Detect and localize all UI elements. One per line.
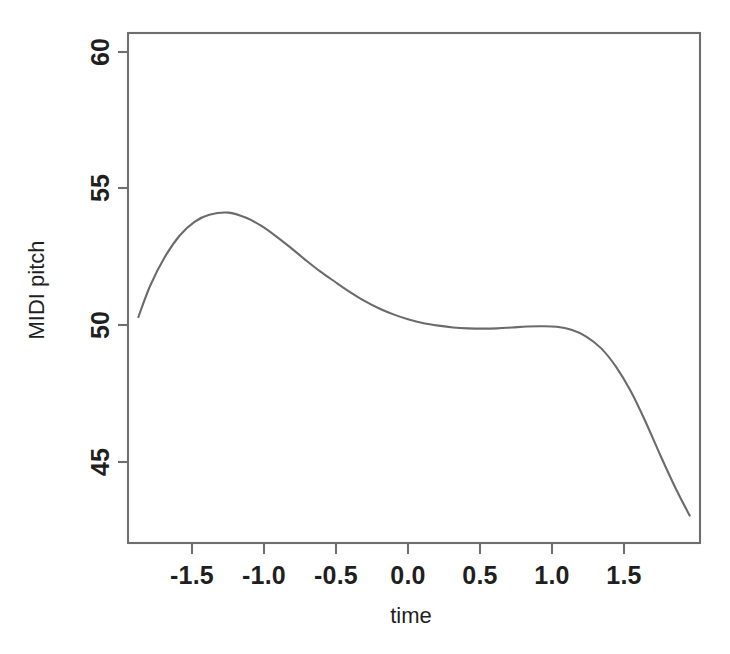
x-tick-label-neg1-0: -1.0 <box>242 561 286 589</box>
y-axis-title: MIDI pitch <box>24 240 49 339</box>
x-tick-label-0-5: 0.5 <box>462 561 497 589</box>
x-tick-label-0-0: 0.0 <box>390 561 425 589</box>
y-tick-label-55: 55 <box>86 174 114 202</box>
midi-pitch-line-chart: 60 55 50 45 -1.5 -1.0 -0.5 0.0 0.5 1.0 1… <box>0 0 730 654</box>
x-tick-label-1-0: 1.0 <box>534 561 569 589</box>
chart-figure: 60 55 50 45 -1.5 -1.0 -0.5 0.0 0.5 1.0 1… <box>0 0 730 654</box>
x-tick-label-1-5: 1.5 <box>606 561 641 589</box>
y-tick-label-45: 45 <box>86 448 114 476</box>
x-axis-title: time <box>390 603 432 628</box>
y-tick-label-60: 60 <box>86 38 114 66</box>
y-tick-label-50: 50 <box>86 311 114 339</box>
x-tick-label-neg1-5: -1.5 <box>170 561 214 589</box>
x-tick-label-neg0-5: -0.5 <box>314 561 358 589</box>
